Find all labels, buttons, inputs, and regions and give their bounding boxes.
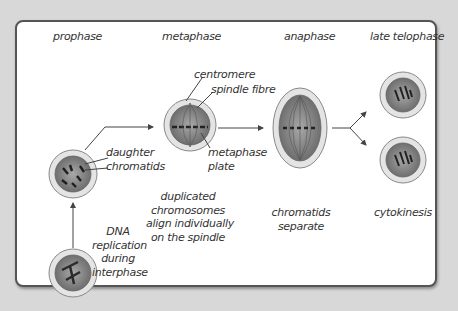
description-line: interphase — [92, 266, 144, 280]
description-line: on the spindle — [146, 231, 230, 245]
prophase-cell — [49, 150, 97, 198]
stage-title-anaphase: anaphase — [284, 30, 335, 44]
annotation-daughter-chromatids: daughter chromatids — [106, 146, 165, 173]
telophase-cell-top — [380, 72, 426, 118]
stage-title-late-telophase: late telophase — [370, 30, 444, 44]
description-line: cytokinesis — [370, 206, 436, 220]
description-line: DNA — [92, 225, 144, 239]
annotation-line: metaphase — [208, 146, 267, 160]
description-line: separate — [266, 220, 336, 234]
annotation-centromere: centromere — [194, 68, 255, 82]
annotation-metaphase-plate: metaphase plate — [208, 146, 267, 173]
description-line: chromosomes — [146, 204, 230, 218]
description-line: replication — [92, 239, 144, 253]
description-telophase: cytokinesis — [370, 206, 436, 220]
anaphase-cell — [273, 88, 327, 168]
description-metaphase: duplicated chromosomes align individuall… — [146, 190, 230, 244]
stage-title-prophase: prophase — [53, 30, 102, 44]
description-line: duplicated — [146, 190, 230, 204]
interphase-cell — [49, 249, 97, 297]
annotation-spindle-fibre: spindle fibre — [211, 83, 275, 97]
annotation-line: chromatids — [106, 160, 165, 174]
metaphase-cell — [164, 99, 216, 151]
annotation-line: daughter — [106, 146, 165, 160]
annotation-line: plate — [208, 160, 267, 174]
stage-title-metaphase: metaphase — [162, 30, 221, 44]
description-line: during — [92, 252, 144, 266]
telophase-cell-bottom — [380, 137, 426, 183]
description-anaphase: chromatids separate — [266, 206, 336, 233]
description-interphase: DNA replication during interphase — [92, 225, 144, 279]
description-line: chromatids — [266, 206, 336, 220]
description-line: align individually — [146, 217, 230, 231]
